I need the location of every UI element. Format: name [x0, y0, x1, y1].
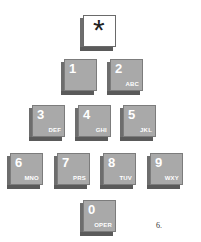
key-face: 7 PRS [57, 153, 90, 185]
key-digit: 0 [88, 203, 95, 216]
key-digit: 7 [62, 156, 69, 169]
key-side [7, 185, 40, 189]
key-side [54, 185, 87, 189]
key-letters: JKL [140, 127, 152, 133]
key-4[interactable]: 4 GHI [75, 105, 111, 141]
key-letters: DEF [48, 127, 61, 133]
key-face: * [83, 15, 116, 47]
figure-caption: 6. [156, 221, 162, 230]
key-side [107, 91, 140, 95]
key-letters: WXY [165, 175, 179, 181]
key-1[interactable]: 1 [61, 59, 97, 95]
key-digit: 3 [37, 108, 44, 121]
key-digit: 9 [155, 156, 162, 169]
key-side [80, 47, 113, 51]
key-digit: 2 [115, 62, 122, 75]
key-face: 3 DEF [32, 105, 65, 137]
key-letters: OPER [94, 222, 112, 228]
asterisk-icon: * [93, 15, 105, 45]
key-letters: PRS [73, 175, 86, 181]
key-side [147, 185, 180, 189]
key-letters: GHI [96, 127, 107, 133]
key-letters: TUV [119, 175, 132, 181]
key-5[interactable]: 5 JKL [120, 105, 156, 141]
key-side [61, 91, 94, 95]
key-star[interactable]: * [80, 15, 116, 51]
key-side [120, 137, 153, 141]
key-side [29, 137, 62, 141]
key-letters: MNO [24, 175, 39, 181]
key-2[interactable]: 2 ABC [107, 59, 143, 95]
key-face: 2 ABC [110, 59, 143, 91]
key-3[interactable]: 3 DEF [29, 105, 65, 141]
key-digit: 5 [128, 108, 135, 121]
key-digit: 1 [69, 62, 76, 75]
key-side [100, 185, 133, 189]
key-face: 1 [64, 59, 97, 91]
key-7[interactable]: 7 PRS [54, 153, 90, 189]
key-face: 6 MNO [10, 153, 43, 185]
key-face: 9 WXY [150, 153, 183, 185]
key-face: 8 TUV [103, 153, 136, 185]
key-6[interactable]: 6 MNO [7, 153, 43, 189]
key-digit: 6 [15, 156, 22, 169]
key-face: 4 GHI [78, 105, 111, 137]
key-digit: 4 [83, 108, 90, 121]
key-9[interactable]: 9 WXY [147, 153, 183, 189]
key-digit: 8 [108, 156, 115, 169]
key-side [75, 137, 108, 141]
key-side [80, 232, 113, 236]
key-face: 5 JKL [123, 105, 156, 137]
key-letters: ABC [125, 81, 139, 87]
key-face: 0 OPER [83, 200, 116, 232]
key-8[interactable]: 8 TUV [100, 153, 136, 189]
key-0[interactable]: 0 OPER [80, 200, 116, 236]
